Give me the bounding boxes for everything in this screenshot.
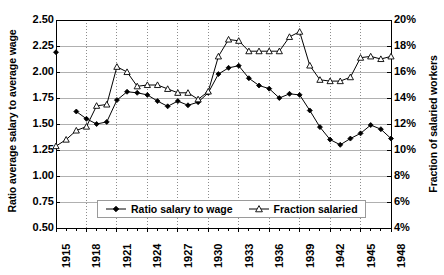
series-1 [54, 50, 394, 148]
data-point [307, 108, 312, 113]
data-point [226, 65, 231, 70]
data-point [114, 64, 120, 70]
data-point [215, 53, 221, 59]
data-point [135, 90, 140, 95]
data-point [368, 53, 374, 59]
data-point [388, 53, 394, 59]
data-point [286, 34, 292, 40]
data-point [225, 36, 231, 42]
legend-item[interactable]: Ratio salary to wage [105, 203, 233, 215]
data-point [297, 29, 303, 35]
series-2 [53, 29, 394, 149]
data-point [297, 92, 302, 97]
data-point [53, 143, 59, 149]
data-point [185, 103, 190, 108]
legend-label: Ratio salary to wage [131, 204, 233, 215]
data-point [145, 92, 150, 97]
data-point [165, 86, 171, 92]
legend-item[interactable]: Fraction salaried [248, 203, 358, 215]
data-point [165, 104, 170, 109]
plot-area [0, 0, 444, 275]
data-point [347, 74, 353, 80]
data-point [348, 136, 353, 141]
data-point [155, 99, 160, 104]
data-point [287, 91, 292, 96]
legend-label: Fraction salaried [274, 204, 358, 215]
data-point [94, 122, 99, 127]
data-point [54, 50, 59, 55]
filled-diamond-icon [105, 203, 127, 215]
series-line [56, 32, 391, 146]
data-point [73, 127, 79, 133]
data-point [175, 99, 180, 104]
chart-figure: Ratio average salary to average wage Fra… [0, 0, 444, 275]
series-line [76, 66, 391, 145]
data-point [104, 101, 110, 107]
chart-legend: Ratio salary to wageFraction salaried [97, 200, 366, 218]
data-point [338, 142, 343, 147]
open-triangle-icon [248, 203, 270, 215]
data-point [307, 62, 313, 68]
